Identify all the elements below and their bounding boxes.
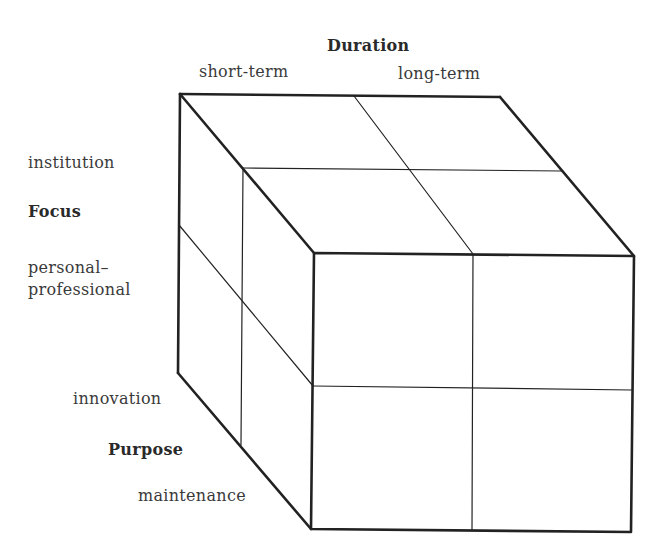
cube-outer-edges xyxy=(178,94,634,532)
cube-grid-lines xyxy=(179,96,632,530)
cube-diagram xyxy=(0,0,670,554)
